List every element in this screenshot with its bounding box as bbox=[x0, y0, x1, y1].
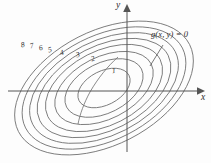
x-axis-label: x bbox=[201, 93, 205, 103]
y-axis-arrowhead bbox=[123, 4, 131, 12]
constraint-leader-line bbox=[150, 45, 163, 66]
level-curve-2 bbox=[55, 47, 153, 130]
y-axis-label: y bbox=[116, 1, 120, 11]
level-curve-group bbox=[0, 0, 211, 163]
level-curve-4 bbox=[31, 26, 177, 149]
plot-canvas bbox=[0, 0, 211, 163]
constraint-curve-label: g(x, y) = 0 bbox=[151, 30, 188, 39]
contour-plot-figure: y x g(x, y) = 0 8 7 6 5 4 3 2 1 bbox=[0, 0, 211, 163]
